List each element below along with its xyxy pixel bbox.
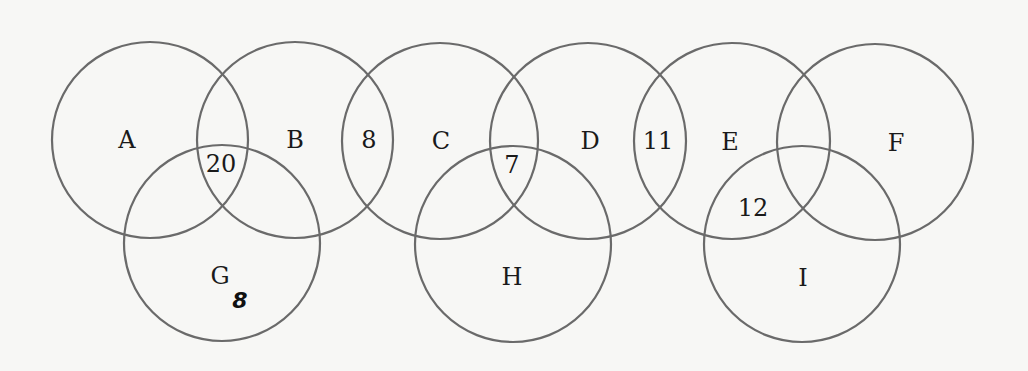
set-label-e: E (721, 128, 739, 156)
region-value: 7 (504, 151, 519, 179)
set-label-d: D (580, 127, 599, 155)
circle-group (52, 42, 973, 342)
venn-diagram: ABCDEFGHI 20871112 8 (0, 0, 1028, 371)
set-label-a: A (117, 126, 136, 154)
region-value: 11 (643, 127, 674, 155)
region-value: 20 (206, 150, 237, 178)
circle-i (704, 146, 900, 342)
set-label-h: H (502, 263, 523, 291)
circle-f (777, 44, 973, 240)
circle-a (52, 42, 248, 238)
annotation-group: 8 (232, 288, 247, 313)
set-label-i: I (798, 264, 807, 292)
set-label-f: F (888, 129, 905, 157)
set-label-g: G (210, 262, 229, 290)
set-label-b: B (286, 126, 304, 154)
region-value: 8 (361, 126, 376, 154)
set-label-c: C (432, 127, 450, 155)
region-value: 12 (738, 194, 769, 222)
handwritten-annotation: 8 (232, 288, 247, 313)
